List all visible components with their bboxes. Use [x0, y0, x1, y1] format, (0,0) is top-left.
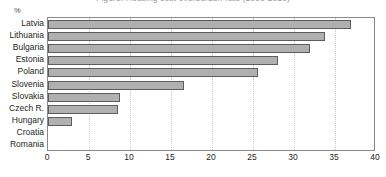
bar-row	[48, 68, 374, 77]
x-axis-tick-35: 35	[329, 152, 338, 163]
bar-estonia	[48, 56, 278, 65]
bar-row	[48, 20, 374, 29]
y-axis-label-estonia: Estonia	[0, 55, 44, 64]
bar-row	[48, 117, 374, 126]
y-axis-label-slovenia: Slovenia	[0, 80, 44, 89]
bar-bulgaria	[48, 44, 310, 53]
y-axis-label-croatia: Croatia	[0, 128, 44, 137]
x-axis-tick-labels: 0510152025303540	[0, 152, 386, 166]
bar-slovakia	[48, 93, 120, 102]
x-axis-tick-0: 0	[45, 152, 50, 163]
bar-row	[48, 32, 374, 41]
bar-series	[48, 18, 374, 150]
x-axis-tick-25: 25	[247, 152, 256, 163]
bar-row	[48, 129, 374, 138]
y-axis-label-czech-r: Czech R.	[0, 104, 44, 113]
bar-row	[48, 93, 374, 102]
plot-area	[47, 17, 375, 151]
x-axis-tick-15: 15	[165, 152, 174, 163]
x-axis-tick-30: 30	[288, 152, 297, 163]
y-axis-label-latvia: Latvia	[0, 19, 44, 28]
y-axis-label-romania: Romania	[0, 140, 44, 149]
bar-chart: Figure: Housing cost overburden rate (20…	[0, 0, 386, 177]
bar-row	[48, 105, 374, 114]
x-axis-tick-10: 10	[124, 152, 133, 163]
x-axis-tick-20: 20	[206, 152, 215, 163]
bar-poland	[48, 68, 258, 77]
y-axis-label-hungary: Hungary	[0, 116, 44, 125]
bar-row	[48, 56, 374, 65]
chart-title-cropped: Figure: Housing cost overburden rate (20…	[0, 0, 386, 3]
y-axis-label-lithuania: Lithuania	[0, 31, 44, 40]
y-axis-label-bulgaria: Bulgaria	[0, 43, 44, 52]
bar-row	[48, 44, 374, 53]
bar-hungary	[48, 117, 72, 126]
y-axis-category-labels: LatviaLithuaniaBulgariaEstoniaPolandSlov…	[0, 17, 44, 151]
bar-row	[48, 141, 374, 150]
bar-latvia	[48, 20, 351, 29]
y-axis-label-slovakia: Slovakia	[0, 92, 44, 101]
bar-slovenia	[48, 81, 184, 90]
x-axis-tick-5: 5	[86, 152, 91, 163]
y-axis-label-poland: Poland	[0, 67, 44, 76]
bar-row	[48, 81, 374, 90]
y-axis-unit-label: %	[14, 6, 21, 15]
bar-lithuania	[48, 32, 325, 41]
x-axis-tick-40: 40	[370, 152, 379, 163]
bar-czech-r	[48, 105, 118, 114]
